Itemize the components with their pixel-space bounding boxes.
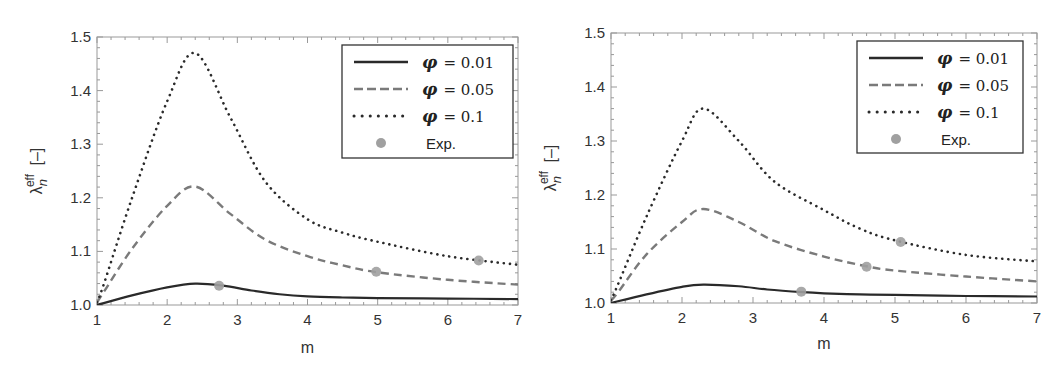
legend-label: φ= 0.05	[422, 79, 494, 99]
x-tick-label: 3	[233, 311, 241, 328]
x-tick-label: 5	[373, 311, 381, 328]
legend-label-exp: Exp.	[941, 131, 971, 148]
legend: φ= 0.01φ= 0.05φ= 0.1Exp.	[342, 45, 513, 158]
y-axis-unit: [–]	[542, 145, 559, 167]
y-axis-unit: [–]	[28, 148, 45, 170]
legend-phi-symbol: φ	[937, 48, 953, 68]
legend-label: φ= 0.01	[937, 48, 1009, 68]
y-tick-label: 1.2	[584, 186, 605, 203]
legend-phi-value: = 0.05	[443, 81, 494, 99]
legend-label: φ= 0.05	[937, 75, 1009, 95]
y-tick-label: 1.2	[70, 189, 91, 206]
x-tick-label: 4	[820, 309, 828, 326]
legend-marker-exp	[891, 134, 901, 144]
legend-phi-value: = 0.1	[443, 108, 484, 126]
legend-phi-symbol: φ	[937, 102, 953, 122]
legend-phi-value: = 0.01	[958, 50, 1009, 68]
exp-data-point	[862, 262, 872, 272]
y-tick-label: 1.0	[70, 296, 91, 313]
y-axis-label: λneff [–]	[23, 148, 50, 195]
x-tick-label: 6	[444, 311, 452, 328]
y-axis-superscript: eff	[23, 173, 37, 187]
exp-data-point	[796, 287, 806, 297]
y-axis-label: λneff [–]	[537, 145, 564, 192]
legend-phi-symbol: φ	[422, 79, 438, 99]
x-axis-label: m	[301, 339, 314, 356]
legend-phi-value: = 0.1	[958, 104, 999, 122]
x-tick-label: 5	[891, 309, 899, 326]
exp-data-point	[474, 256, 484, 266]
legend-phi-value: = 0.05	[958, 77, 1009, 95]
legend-phi-symbol: φ	[422, 52, 438, 72]
x-tick-label: 7	[1033, 309, 1041, 326]
exp-data-point	[214, 281, 224, 291]
y-tick-label: 1.3	[70, 135, 91, 152]
legend-marker-exp	[376, 138, 386, 148]
y-tick-label: 1.4	[584, 78, 605, 95]
y-axis-superscript: eff	[537, 170, 551, 184]
y-tick-label: 1.1	[584, 240, 605, 257]
figure-canvas: 12345671.01.11.21.31.41.5mλneff [–]φ= 0.…	[0, 0, 1062, 375]
y-tick-label: 1.1	[70, 242, 91, 259]
x-tick-label: 3	[749, 309, 757, 326]
right-chart-panel: 12345671.01.11.21.31.41.5mλneff [–]φ= 0.…	[537, 24, 1041, 352]
y-axis-subscript: n	[549, 176, 564, 183]
exp-data-point	[896, 237, 906, 247]
x-tick-label: 2	[678, 309, 686, 326]
x-tick-label: 6	[962, 309, 970, 326]
legend-label-exp: Exp.	[426, 135, 456, 152]
y-tick-label: 1.5	[70, 28, 91, 45]
y-tick-label: 1.3	[584, 132, 605, 149]
series-line-dashed	[611, 209, 1037, 300]
x-tick-label: 2	[163, 311, 171, 328]
exp-data-point	[371, 267, 381, 277]
x-tick-label: 4	[303, 311, 311, 328]
x-tick-label: 1	[607, 309, 615, 326]
legend-label: φ= 0.01	[422, 52, 494, 72]
legend-label: φ= 0.1	[937, 102, 1000, 122]
x-tick-label: 1	[93, 311, 101, 328]
legend-label: φ= 0.1	[422, 106, 485, 126]
legend: φ= 0.01φ= 0.05φ= 0.1Exp.	[857, 41, 1023, 153]
left-chart-panel: 12345671.01.11.21.31.41.5mλneff [–]φ= 0.…	[23, 28, 522, 356]
y-tick-label: 1.4	[70, 82, 91, 99]
y-tick-label: 1.0	[584, 294, 605, 311]
legend-phi-value: = 0.01	[443, 54, 494, 72]
series-line-dashed	[97, 186, 518, 302]
x-tick-label: 7	[514, 311, 522, 328]
y-axis-subscript: n	[35, 179, 50, 186]
legend-phi-symbol: φ	[937, 75, 953, 95]
y-tick-label: 1.5	[584, 24, 605, 41]
legend-phi-symbol: φ	[422, 106, 438, 126]
x-axis-label: m	[817, 335, 830, 352]
